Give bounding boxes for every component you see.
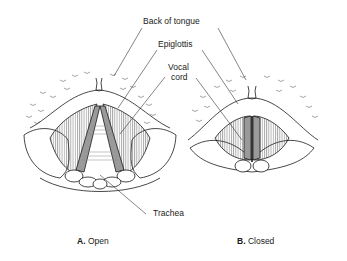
label-vocal-cord-line2: cord [171,73,188,82]
closed-glottis-illustration [188,76,318,172]
caption-open-text: Open [88,236,109,246]
caption-open-letter: A. [77,236,86,246]
caption-closed-text: Closed [248,236,274,246]
label-trachea: Trachea [153,209,184,218]
label-vocal-cord-line1: Vocal [168,63,189,72]
label-epiglottis: Epiglottis [158,40,193,49]
caption-closed: B. Closed [237,236,274,246]
open-glottis-illustration [24,72,176,192]
label-back-of-tongue: Back of tongue [143,17,200,26]
caption-open: A. Open [77,236,109,246]
caption-closed-letter: B. [237,236,246,246]
